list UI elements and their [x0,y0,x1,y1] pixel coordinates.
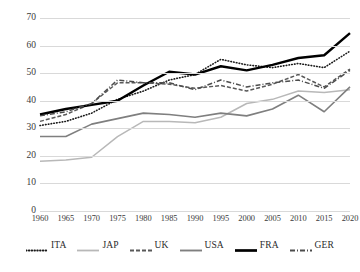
legend-item-fra[interactable]: FRA [235,240,279,250]
y-axis-tick-label: 60 [2,41,36,50]
x-axis-tick-label: 1995 [212,214,229,224]
chart-legend: ITAJAPUKUSAFRAGER [0,240,360,250]
gridline [40,156,350,157]
legend-item-ger[interactable]: GER [290,240,334,250]
gridline [40,128,350,129]
legend-label: FRA [260,240,279,250]
legend-label: UK [155,240,169,250]
legend-item-ita[interactable]: ITA [26,240,66,250]
legend-swatch-ger [290,241,312,250]
x-axis-tick-label: 2005 [264,214,281,224]
series-lines [40,18,350,211]
legend-item-usa[interactable]: USA [180,240,224,250]
gridline [40,183,350,184]
gridline [40,18,350,19]
gridline [40,101,350,102]
x-axis-tick-label: 1970 [83,214,100,224]
gridline [40,73,350,74]
series-line-uk [40,69,350,121]
gridline [40,211,350,212]
x-axis-tick-label: 2020 [342,214,359,224]
x-axis-tick-label: 1980 [135,214,152,224]
x-axis: 1960196519701975198019851990199520002005… [40,214,350,230]
plot-area [40,18,350,211]
legend-swatch-jap [77,241,99,250]
y-axis-tick-label: 20 [2,151,36,160]
y-axis-tick-label: 70 [2,13,36,22]
y-axis-tick-label: 30 [2,123,36,132]
x-axis-tick-label: 1965 [57,214,74,224]
legend-swatch-uk [130,241,152,250]
y-axis-tick-label: 50 [2,68,36,77]
legend-label: USA [205,240,224,250]
legend-item-jap[interactable]: JAP [77,240,118,250]
legend-item-uk[interactable]: UK [130,240,169,250]
x-axis-tick-label: 1990 [187,214,204,224]
legend-swatch-ita [26,241,48,250]
x-axis-tick-label: 2000 [238,214,255,224]
legend-label: ITA [51,240,66,250]
legend-label: GER [315,240,334,250]
gridline [40,46,350,47]
x-axis-tick-label: 2015 [316,214,333,224]
legend-swatch-usa [180,241,202,250]
x-axis-tick-label: 1960 [32,214,49,224]
legend-label: JAP [102,240,118,250]
x-axis-tick-label: 2010 [290,214,307,224]
x-axis-tick-label: 1985 [161,214,178,224]
line-chart: 010203040506070 196019651970197519801985… [0,0,360,272]
y-axis-tick-label: 40 [2,96,36,105]
y-axis-tick-label: 10 [2,178,36,187]
y-axis: 010203040506070 [0,18,36,211]
legend-swatch-fra [235,241,257,250]
x-axis-tick-label: 1975 [109,214,126,224]
